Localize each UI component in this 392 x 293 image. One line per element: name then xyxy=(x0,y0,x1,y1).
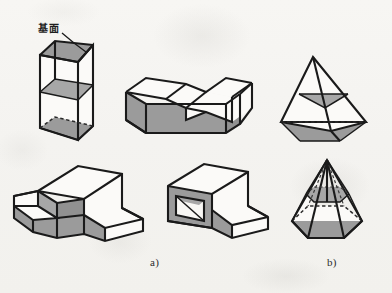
solid-grooved-block xyxy=(126,78,252,133)
caption-b: b) xyxy=(327,256,337,268)
isometric-solids-drawing: .ink { stroke:#1a1a1a; stroke-linejoin:r… xyxy=(0,0,392,293)
solid-stepped-notched-block xyxy=(14,166,143,241)
solid-hexagonal-pyramid-section xyxy=(292,160,362,238)
figure-plate: .ink { stroke:#1a1a1a; stroke-linejoin:r… xyxy=(0,0,392,293)
caption-a: a) xyxy=(150,256,159,268)
solid-truncated-prism xyxy=(40,33,93,140)
base-plane-label: 基面 xyxy=(38,20,60,35)
solid-tetrahedron-section xyxy=(281,57,366,141)
solid-stepped-block-with-hole xyxy=(168,164,268,238)
